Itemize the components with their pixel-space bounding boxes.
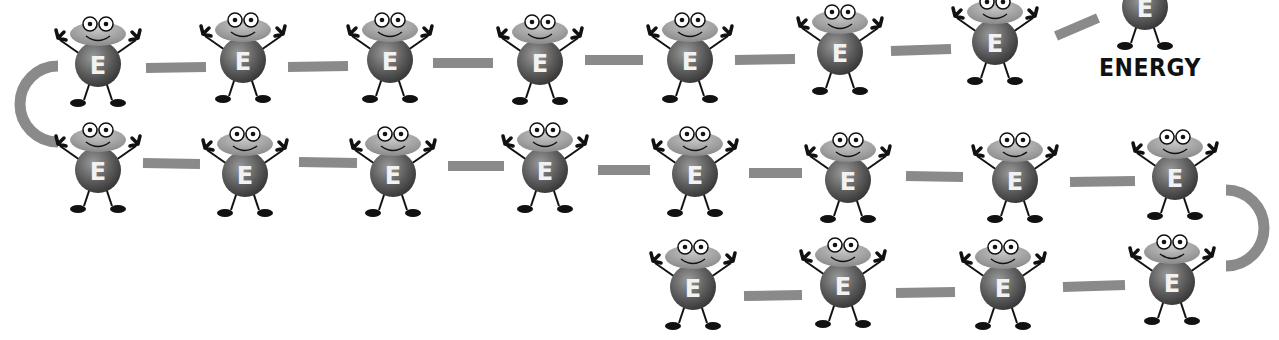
head-icon bbox=[512, 20, 568, 44]
energy-character: E bbox=[953, 0, 1037, 85]
energy-character: E bbox=[201, 13, 285, 103]
energy-character: E bbox=[1103, 0, 1187, 50]
letter-e: E bbox=[840, 168, 856, 196]
foot-icon bbox=[705, 322, 721, 330]
foot-icon bbox=[517, 205, 533, 213]
head-icon bbox=[967, 0, 1023, 24]
head-icon bbox=[215, 18, 271, 42]
hand-icon bbox=[275, 26, 285, 36]
link-bar bbox=[146, 67, 206, 68]
foot-icon bbox=[662, 95, 678, 103]
head-icon bbox=[662, 18, 718, 42]
letter-e: E bbox=[685, 275, 701, 303]
hand-icon bbox=[961, 253, 971, 263]
head-icon bbox=[1144, 240, 1200, 264]
energy-character: E bbox=[56, 123, 140, 213]
hand-icon bbox=[973, 146, 983, 156]
foot-icon bbox=[707, 209, 723, 217]
foot-icon bbox=[967, 77, 983, 85]
hand-icon bbox=[880, 146, 890, 156]
hand-icon bbox=[1027, 8, 1037, 18]
hand-icon bbox=[727, 140, 737, 150]
foot-icon bbox=[1144, 317, 1160, 325]
hand-icon bbox=[130, 30, 140, 40]
hand-icon bbox=[203, 140, 213, 150]
foot-icon bbox=[405, 209, 421, 217]
hand-icon bbox=[1047, 146, 1057, 156]
foot-icon bbox=[987, 215, 1003, 223]
energy-character: E bbox=[203, 127, 287, 217]
letter-e: E bbox=[235, 48, 251, 76]
energy-character: E bbox=[806, 133, 890, 223]
letter-e: E bbox=[1007, 168, 1023, 196]
foot-icon bbox=[70, 205, 86, 213]
energy-character: E bbox=[503, 123, 587, 213]
hand-icon bbox=[425, 140, 435, 150]
foot-icon bbox=[1117, 42, 1133, 50]
letter-e: E bbox=[532, 50, 548, 78]
hand-icon bbox=[953, 8, 963, 18]
foot-icon bbox=[665, 322, 681, 330]
foot-icon bbox=[1007, 77, 1023, 85]
letter-e: E bbox=[1164, 270, 1180, 298]
foot-icon bbox=[855, 320, 871, 328]
letter-e: E bbox=[687, 162, 703, 190]
hand-icon bbox=[422, 26, 432, 36]
foot-icon bbox=[110, 205, 126, 213]
letter-e: E bbox=[90, 52, 106, 80]
foot-icon bbox=[70, 99, 86, 107]
hand-icon bbox=[653, 140, 663, 150]
hand-icon bbox=[130, 136, 140, 146]
hand-icon bbox=[1133, 143, 1143, 153]
hand-icon bbox=[503, 136, 513, 146]
letter-e: E bbox=[382, 48, 398, 76]
head-icon bbox=[1147, 135, 1203, 159]
head-icon bbox=[815, 243, 871, 267]
foot-icon bbox=[402, 95, 418, 103]
link-bar bbox=[891, 49, 951, 51]
energy-character: E bbox=[1130, 235, 1214, 325]
hand-icon bbox=[725, 253, 735, 263]
head-icon bbox=[987, 138, 1043, 162]
foot-icon bbox=[667, 209, 683, 217]
head-icon bbox=[70, 128, 126, 152]
energy-character: E bbox=[798, 5, 882, 95]
energy-label: ENERGY bbox=[1095, 53, 1205, 82]
head-icon bbox=[217, 132, 273, 156]
letter-e: E bbox=[537, 158, 553, 186]
link-bar bbox=[1070, 181, 1135, 182]
energy-character: E bbox=[56, 17, 140, 107]
energy-chain-illustration: EEEEEEEEEEEEEEEEEEEE ENERGY bbox=[0, 0, 1279, 340]
foot-icon bbox=[257, 209, 273, 217]
energy-character: E bbox=[801, 238, 885, 328]
hand-icon bbox=[351, 140, 361, 150]
hand-icon bbox=[1035, 253, 1045, 263]
hand-icon bbox=[348, 26, 358, 36]
hand-icon bbox=[1130, 248, 1140, 258]
link-bar bbox=[299, 162, 357, 163]
energy-character: E bbox=[973, 133, 1057, 223]
hand-icon bbox=[572, 28, 582, 38]
hand-icon bbox=[277, 140, 287, 150]
letter-e: E bbox=[835, 273, 851, 301]
hand-icon bbox=[872, 18, 882, 28]
foot-icon bbox=[362, 95, 378, 103]
foot-icon bbox=[820, 215, 836, 223]
head-icon bbox=[362, 18, 418, 42]
letter-e: E bbox=[995, 275, 1011, 303]
hand-icon bbox=[1204, 248, 1214, 258]
letter-e: E bbox=[987, 30, 1003, 58]
link-bar bbox=[1056, 18, 1098, 36]
energy-chain-canvas: EEEEEEEEEEEEEEEEEEEE bbox=[0, 0, 1279, 340]
link-bar bbox=[744, 295, 802, 296]
foot-icon bbox=[1027, 215, 1043, 223]
foot-icon bbox=[215, 95, 231, 103]
energy-character: E bbox=[653, 127, 737, 217]
foot-icon bbox=[557, 205, 573, 213]
hand-icon bbox=[201, 26, 211, 36]
foot-icon bbox=[815, 320, 831, 328]
letter-e: E bbox=[832, 40, 848, 68]
foot-icon bbox=[512, 97, 528, 105]
energy-character: E bbox=[351, 127, 435, 217]
letter-e: E bbox=[682, 48, 698, 76]
